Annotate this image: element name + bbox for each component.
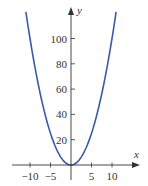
- y-axis-arrow-icon: [68, 7, 74, 15]
- y-axis-label: y: [76, 4, 82, 16]
- y-tick-label: 100: [51, 33, 68, 45]
- chart-container: xy−10−551020406080100: [0, 0, 148, 186]
- y-tick-label: 60: [56, 83, 68, 95]
- y-tick-label: 40: [56, 108, 68, 120]
- x-tick-label: −5: [45, 170, 57, 182]
- y-tick-label: 80: [56, 58, 68, 70]
- x-tick-label: −10: [21, 170, 39, 182]
- parabola-chart: xy−10−551020406080100: [0, 0, 148, 186]
- x-axis-label: x: [133, 148, 139, 160]
- x-tick-label: 5: [89, 170, 95, 182]
- x-axis-arrow-icon: [132, 162, 140, 168]
- y-tick-label: 20: [56, 134, 68, 146]
- x-tick-label: 10: [107, 170, 119, 182]
